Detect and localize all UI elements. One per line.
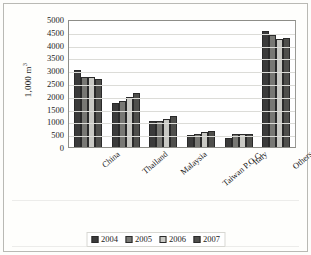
bar — [156, 121, 163, 147]
legend-swatch — [125, 236, 132, 243]
bar — [225, 138, 232, 147]
gridline — [69, 72, 295, 73]
bar-groups — [69, 21, 295, 147]
legend-label: 2007 — [203, 235, 220, 244]
legend-label: 2004 — [101, 235, 118, 244]
x-axis-category-label: Thailand — [140, 149, 170, 176]
bar — [208, 131, 215, 147]
plot-area — [68, 20, 296, 148]
y-axis-tick-labels: 0500100015002000250030003500400045005000 — [30, 20, 64, 148]
x-axis-category-label: China — [100, 149, 122, 170]
gridline — [69, 111, 295, 112]
legend-swatch — [193, 236, 200, 243]
y-axis-tick-mark — [68, 21, 69, 22]
y-axis-tick-label: 1000 — [47, 118, 64, 127]
chart-page: 1,000 m3 0500100015002000250030003500400… — [0, 0, 311, 255]
y-axis-tick-label: 500 — [51, 131, 64, 140]
gridline — [69, 59, 295, 60]
bar — [149, 121, 156, 147]
gridline — [69, 34, 295, 35]
x-axis-category-label: Malaysia — [179, 149, 209, 177]
gridline — [69, 47, 295, 48]
legend-label: 2006 — [169, 235, 186, 244]
y-axis-tick-label: 2500 — [47, 80, 64, 89]
bar-group — [257, 21, 295, 147]
y-axis-tick-mark — [68, 111, 69, 112]
bar — [201, 132, 208, 147]
legend-swatch — [91, 236, 98, 243]
y-axis-title-superscript: 3 — [21, 63, 28, 66]
legend-item[interactable]: 2005 — [125, 235, 152, 244]
gridline — [69, 85, 295, 86]
gridline — [69, 98, 295, 99]
gridline — [69, 123, 295, 124]
y-axis-tick-label: 1500 — [47, 105, 64, 114]
y-axis-tick-mark — [68, 34, 69, 35]
bar — [133, 93, 140, 147]
bar — [262, 31, 269, 147]
legend-label: 2005 — [135, 235, 152, 244]
y-axis-tick-mark — [68, 136, 69, 137]
bar-group — [144, 21, 182, 147]
y-axis-tick-mark — [68, 85, 69, 86]
y-axis-tick-mark — [68, 59, 69, 60]
y-axis-tick-mark — [68, 47, 69, 48]
bar-group — [69, 21, 107, 147]
y-axis-tick-label: 4500 — [47, 29, 64, 38]
bar-group — [182, 21, 220, 147]
y-axis-tick-mark — [68, 98, 69, 99]
bar-group — [107, 21, 145, 147]
bar — [276, 39, 283, 147]
figure-frame: 1,000 m3 0500100015002000250030003500400… — [3, 3, 308, 252]
y-axis-tick-mark — [68, 72, 69, 73]
bar — [283, 38, 290, 147]
legend-swatch — [159, 236, 166, 243]
legend-item[interactable]: 2004 — [91, 235, 118, 244]
x-axis-category-label: Others — [291, 149, 311, 171]
y-axis-tick-label: 2000 — [47, 93, 64, 102]
legend-item[interactable]: 2007 — [193, 235, 220, 244]
gridline — [69, 136, 295, 137]
bar — [269, 35, 276, 147]
legend-item[interactable]: 2006 — [159, 235, 186, 244]
y-axis-tick-label: 3500 — [47, 54, 64, 63]
y-axis-tick-label: 0 — [60, 144, 64, 153]
y-axis-tick-label: 5000 — [47, 16, 64, 25]
y-axis-tick-label: 4000 — [47, 41, 64, 50]
bar-group — [220, 21, 258, 147]
y-axis-tick-mark — [68, 123, 69, 124]
bar — [170, 116, 177, 147]
y-axis-tick-label: 3000 — [47, 67, 64, 76]
bar — [126, 97, 133, 147]
x-axis-category-labels: ChinaThailandMalaysiaTaiwan P.O.C.ItalyO… — [68, 149, 296, 205]
chart-legend: 2004200520062007 — [86, 232, 225, 247]
